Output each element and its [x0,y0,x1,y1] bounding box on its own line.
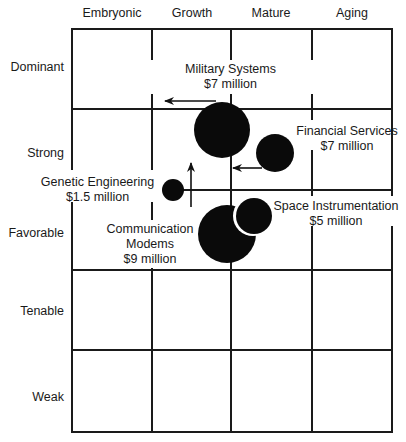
label-name-line1: Communication [100,222,200,237]
label-name: Space Instrumentation [266,199,406,214]
bubble-military-systems [194,102,250,158]
label-name: Financial Services [288,124,406,139]
label-military-systems: Military Systems $7 million [158,62,303,92]
label-value: $9 million [100,252,200,267]
label-name: Genetic Engineering [30,175,165,190]
label-value: $1.5 million [30,190,165,205]
label-name: Military Systems [158,62,303,77]
label-financial-services: Financial Services $7 million [288,124,406,154]
label-genetic-engineering: Genetic Engineering $1.5 million [30,175,165,205]
label-value: $7 million [288,139,406,154]
label-space-instrumentation: Space Instrumentation $5 million [266,199,406,229]
label-value: $5 million [266,214,406,229]
label-communication-modems: Communication Modems $9 million [100,222,200,267]
label-name-line2: Modems [100,237,200,252]
label-value: $7 million [158,77,303,92]
bubble-genetic-engineering [162,179,184,201]
